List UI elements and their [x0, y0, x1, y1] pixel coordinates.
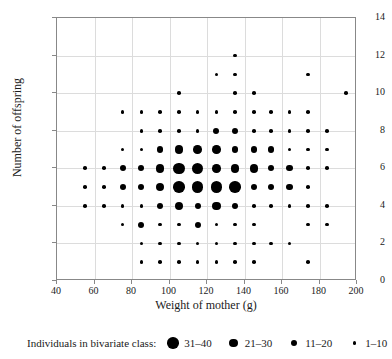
data-point — [192, 181, 204, 193]
data-point — [268, 165, 274, 171]
data-point — [121, 148, 125, 152]
data-point — [233, 54, 237, 58]
data-point — [306, 129, 310, 133]
data-point — [288, 204, 292, 208]
data-point — [232, 146, 238, 152]
data-point — [252, 129, 256, 133]
data-point — [175, 202, 184, 211]
data-point — [196, 110, 200, 114]
data-point — [211, 181, 223, 193]
data-point — [158, 242, 162, 246]
legend-item: 21–30 — [226, 337, 273, 349]
data-point — [286, 184, 292, 190]
data-point — [177, 242, 181, 246]
data-point — [158, 260, 162, 264]
data-point — [233, 110, 237, 114]
data-point — [102, 166, 106, 170]
data-point — [212, 145, 221, 154]
data-point — [156, 164, 165, 173]
data-point — [325, 148, 329, 152]
data-point — [138, 165, 144, 171]
x-tick-mark — [244, 280, 245, 284]
data-point — [252, 242, 256, 246]
y-tick-label: 12 — [339, 50, 385, 60]
data-point — [268, 184, 274, 190]
x-tick-mark — [94, 280, 95, 284]
data-point — [156, 183, 165, 192]
data-point — [121, 223, 125, 227]
legend-caption: Individuals in bivariate class: — [27, 337, 156, 349]
data-point — [193, 145, 202, 154]
data-point — [196, 260, 200, 264]
data-point — [306, 166, 310, 170]
data-point — [233, 260, 237, 264]
data-point — [215, 223, 219, 227]
data-point — [140, 204, 144, 208]
x-tick-label: 40 — [36, 286, 76, 296]
data-point — [102, 204, 106, 208]
data-point — [173, 181, 185, 193]
x-tick-label: 160 — [261, 286, 301, 296]
data-point — [250, 164, 259, 173]
y-axis-title: Number of offspring — [10, 38, 25, 218]
data-point — [306, 148, 310, 152]
data-point — [232, 203, 238, 209]
data-point — [288, 129, 292, 133]
data-point — [288, 242, 292, 246]
y-tick-mark — [52, 130, 56, 131]
data-point — [138, 184, 144, 190]
data-point — [121, 204, 125, 208]
data-point — [252, 110, 256, 114]
data-point — [138, 222, 144, 228]
data-point — [102, 185, 106, 189]
x-tick-label: 80 — [111, 286, 151, 296]
y-tick-label: 2 — [339, 237, 385, 247]
data-point — [83, 166, 87, 170]
data-point — [177, 110, 181, 114]
legend-swatch-box — [286, 340, 302, 346]
data-point — [177, 223, 181, 227]
data-point — [229, 181, 241, 193]
data-point — [215, 73, 219, 77]
data-point — [158, 223, 162, 227]
y-tick-label: 14 — [339, 12, 385, 22]
data-point — [252, 223, 256, 227]
data-point — [269, 204, 273, 208]
data-point — [213, 128, 219, 134]
data-point — [286, 165, 292, 171]
data-point — [175, 145, 184, 154]
y-tick-label: 4 — [339, 200, 385, 210]
y-tick-label: 0 — [339, 275, 385, 285]
data-point — [325, 166, 329, 170]
data-point — [251, 184, 257, 190]
data-point — [83, 185, 87, 189]
x-tick-label: 100 — [149, 286, 189, 296]
y-tick-mark — [52, 167, 56, 168]
data-point — [268, 146, 274, 152]
y-tick-label: 8 — [339, 125, 385, 135]
y-tick-mark — [52, 242, 56, 243]
data-point — [269, 110, 273, 114]
data-point — [306, 204, 310, 208]
data-point — [157, 203, 163, 209]
data-point — [177, 91, 181, 95]
data-point — [121, 110, 125, 114]
x-tick-mark — [319, 280, 320, 284]
legend-swatch-box — [165, 337, 181, 349]
x-tick-mark — [356, 280, 357, 284]
data-points-layer — [57, 18, 355, 279]
x-tick-mark — [56, 280, 57, 284]
legend-swatch — [291, 340, 297, 346]
data-point — [233, 223, 237, 227]
data-point — [325, 223, 329, 227]
data-point — [195, 203, 201, 209]
data-point — [177, 129, 181, 133]
data-point — [288, 148, 292, 152]
data-point — [196, 129, 200, 133]
legend-swatch-box — [346, 341, 362, 345]
y-tick-label: 6 — [339, 162, 385, 172]
x-tick-mark — [131, 280, 132, 284]
data-point — [252, 260, 256, 264]
data-point — [215, 260, 219, 264]
